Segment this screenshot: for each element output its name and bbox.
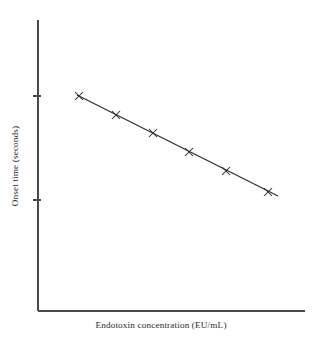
trendline (77, 95, 278, 196)
data-point-marker (75, 92, 83, 100)
data-point-marker (112, 111, 120, 119)
y-axis-label: Onset time (seconds) (10, 126, 20, 207)
data-point-marker (185, 148, 193, 156)
y-axis-ticks (33, 96, 41, 200)
axes-group (38, 20, 305, 311)
chart-figure: Onset time (seconds) Endotoxin concentra… (0, 0, 322, 344)
data-point-marker (149, 129, 157, 137)
series-group (75, 92, 278, 196)
x-axis-label: Endotoxin concentration (EU/mL) (0, 320, 322, 330)
chart-canvas (0, 0, 322, 344)
y-axis-label-container: Onset time (seconds) (0, 0, 30, 344)
